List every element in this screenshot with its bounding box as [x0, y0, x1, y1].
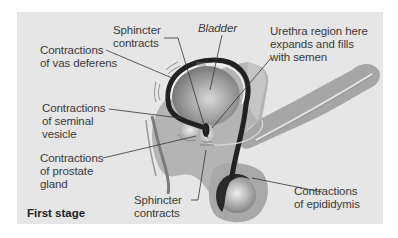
scrotum — [209, 163, 268, 222]
label-seminal-vesicle: Contractions of seminal vesicle — [42, 102, 105, 141]
label-epididymis: Contractions of epididymis — [294, 185, 360, 211]
label-sphincter-contracts-top: Sphincter contracts — [113, 24, 161, 50]
label-prostate-gland: Contractions of prostate gland — [40, 152, 103, 191]
label-sphincter-contracts-bottom: Sphincter contracts — [134, 194, 182, 220]
label-urethra-region: Urethra region here expands and fills wi… — [270, 25, 368, 64]
stage-label: First stage — [27, 207, 85, 219]
label-bladder: Bladder — [198, 22, 237, 35]
label-vas-deferens: Contractions of vas deferens — [40, 44, 117, 70]
